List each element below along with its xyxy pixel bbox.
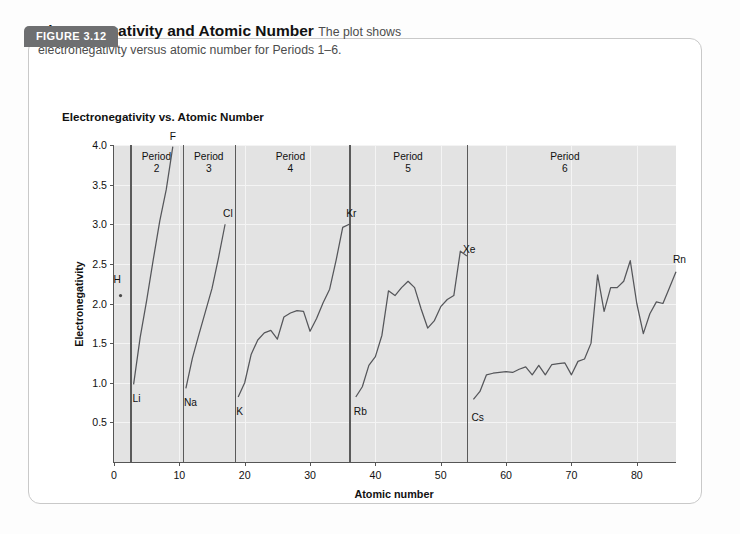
series-line bbox=[186, 224, 225, 388]
data-series-layer bbox=[114, 145, 676, 462]
element-point-label: F bbox=[170, 131, 176, 142]
x-tick-label: 30 bbox=[304, 469, 316, 481]
x-tick-label: 10 bbox=[173, 469, 185, 481]
element-point-label: Xe bbox=[463, 244, 475, 255]
caption-rest: electronegativity versus atomic number f… bbox=[38, 43, 638, 57]
x-tick-mark bbox=[245, 462, 246, 466]
x-tick-mark bbox=[637, 462, 638, 466]
x-tick-mark bbox=[571, 462, 572, 466]
x-tick-mark bbox=[441, 462, 442, 466]
x-tick-label: 0 bbox=[111, 469, 117, 481]
y-tick-label: 1.0 bbox=[92, 377, 107, 389]
series-line bbox=[473, 261, 676, 400]
y-tick-label: 4.0 bbox=[92, 139, 107, 151]
y-tick-label: 2.0 bbox=[92, 298, 107, 310]
x-tick-mark bbox=[506, 462, 507, 466]
y-axis-label: Electronegativity bbox=[36, 145, 121, 462]
element-point-label: K bbox=[236, 406, 243, 417]
y-tick-label: 2.5 bbox=[92, 258, 107, 270]
y-tick-label: 0.5 bbox=[92, 416, 107, 428]
plot-area: 0.51.01.52.02.53.03.54.00102030405060708… bbox=[113, 145, 676, 463]
element-point-label: Li bbox=[133, 393, 141, 404]
y-tick-label: 1.5 bbox=[92, 337, 107, 349]
series-line bbox=[134, 147, 173, 385]
x-tick-label: 20 bbox=[239, 469, 251, 481]
figure-caption: Electronegativity and Atomic Number The … bbox=[38, 22, 638, 57]
y-axis-label-text: Electronegativity bbox=[73, 261, 85, 346]
data-point bbox=[119, 294, 122, 297]
element-point-label: Cs bbox=[471, 412, 483, 423]
y-tick-label: 3.5 bbox=[92, 179, 107, 191]
x-tick-mark bbox=[179, 462, 180, 466]
figure-tab: FIGURE 3.12 bbox=[24, 26, 118, 47]
x-tick-label: 50 bbox=[435, 469, 447, 481]
y-tick-label: 3.0 bbox=[92, 218, 107, 230]
element-point-label: Rb bbox=[354, 406, 367, 417]
x-tick-label: 40 bbox=[369, 469, 381, 481]
chart-title: Electronegativity vs. Atomic Number bbox=[62, 110, 264, 123]
x-axis-label: Atomic number bbox=[113, 488, 675, 500]
element-point-label: H bbox=[114, 274, 121, 285]
series-line bbox=[238, 224, 349, 397]
x-tick-mark bbox=[114, 462, 115, 466]
element-point-label: Kr bbox=[346, 208, 356, 219]
x-tick-label: 70 bbox=[566, 469, 578, 481]
element-point-label: Na bbox=[184, 397, 197, 408]
element-point-label: Cl bbox=[223, 208, 233, 219]
element-point-label: Rn bbox=[673, 254, 686, 265]
x-tick-mark bbox=[375, 462, 376, 466]
x-tick-mark bbox=[310, 462, 311, 466]
x-tick-label: 60 bbox=[500, 469, 512, 481]
series-line bbox=[356, 251, 467, 397]
caption-lead: The plot shows bbox=[318, 25, 401, 39]
x-tick-label: 80 bbox=[631, 469, 643, 481]
